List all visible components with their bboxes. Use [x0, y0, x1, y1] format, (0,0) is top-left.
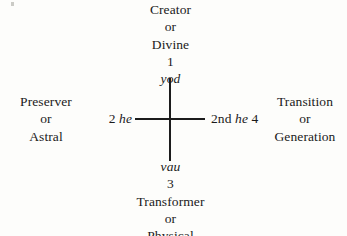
- bottom-line-or: or: [0, 210, 344, 227]
- top-hebrew-letter-yod: yod: [0, 70, 344, 87]
- bottom-hebrew-letter-vau: vau: [0, 158, 344, 175]
- top-line-or: or: [0, 18, 344, 35]
- bottom-label-block: vau 3 Transformer or Physical: [0, 158, 344, 236]
- bottom-line-physical: Physical: [0, 227, 344, 236]
- top-line-divine: Divine: [0, 36, 344, 53]
- right-label-block: Transition or Generation: [264, 93, 346, 145]
- right-axis-ordinal: 2nd: [211, 111, 232, 126]
- cross-horizontal-axis-line: [135, 118, 205, 120]
- right-axis-hebrew-letter-he: he: [235, 111, 248, 126]
- right-line-or: or: [264, 110, 346, 127]
- right-line-generation: Generation: [264, 128, 346, 145]
- top-line-creator: Creator: [0, 1, 344, 18]
- bottom-number: 3: [0, 175, 344, 192]
- left-axis-number: 2: [109, 111, 116, 126]
- left-axis-label: 2 he: [84, 110, 132, 127]
- left-label-block: Preserver or Astral: [6, 93, 86, 145]
- left-axis-hebrew-letter-he: he: [119, 111, 132, 126]
- left-line-astral: Astral: [6, 128, 86, 145]
- top-label-block: Creator or Divine 1 yod: [0, 1, 344, 87]
- bottom-line-transformer: Transformer: [0, 193, 344, 210]
- left-line-preserver: Preserver: [6, 93, 86, 110]
- right-line-transition: Transition: [264, 93, 346, 110]
- cross-diagram: Creator or Divine 1 yod Preserver or Ast…: [0, 0, 347, 236]
- right-axis-number: 4: [251, 111, 258, 126]
- left-line-or: or: [6, 110, 86, 127]
- top-number: 1: [0, 53, 344, 70]
- right-axis-label: 2nd he 4: [211, 110, 267, 127]
